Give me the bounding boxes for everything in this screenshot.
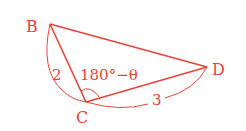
angle-label-c: 180°−θ — [80, 66, 138, 84]
side-bd — [50, 24, 207, 67]
length-arc-cd — [86, 102, 148, 108]
triangle-diagram: B C D 2 3 180°−θ — [0, 0, 246, 131]
vertex-label-c: C — [76, 108, 88, 127]
vertex-label-b: B — [26, 17, 38, 36]
side-bc — [50, 24, 86, 102]
length-label-cd: 3 — [152, 91, 162, 109]
length-arc-cd-right — [165, 67, 207, 98]
vertex-label-d: D — [212, 60, 225, 79]
length-label-bc: 2 — [52, 66, 62, 84]
